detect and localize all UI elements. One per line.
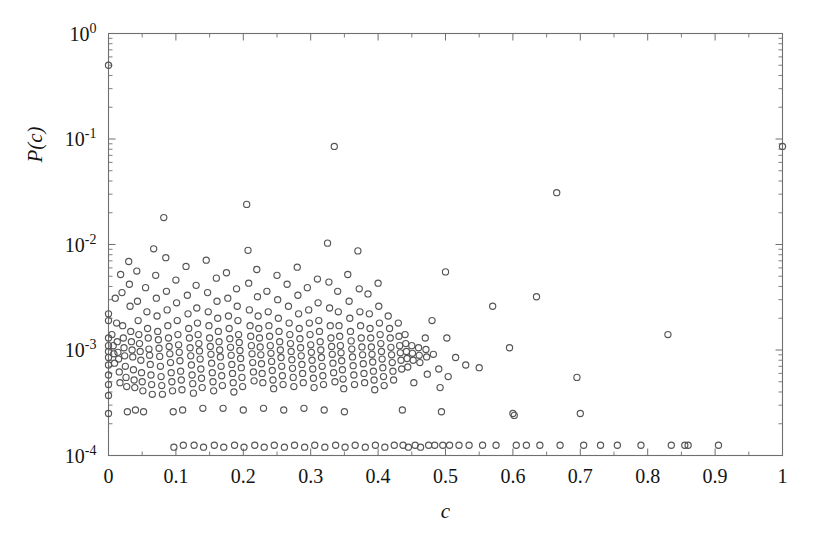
data-point bbox=[208, 351, 214, 357]
data-points-group bbox=[105, 62, 785, 450]
data-point bbox=[228, 352, 234, 358]
x-tick-label: 0.5 bbox=[433, 465, 458, 487]
data-point bbox=[215, 315, 221, 321]
data-point bbox=[142, 285, 148, 291]
data-point bbox=[331, 370, 337, 376]
data-point bbox=[358, 335, 364, 341]
data-point bbox=[312, 442, 318, 448]
data-point bbox=[239, 374, 245, 380]
data-point bbox=[174, 317, 180, 323]
data-point bbox=[166, 343, 172, 349]
data-point bbox=[429, 317, 435, 323]
data-point bbox=[136, 341, 142, 347]
data-point bbox=[249, 351, 255, 357]
data-point bbox=[266, 323, 272, 329]
data-point bbox=[533, 294, 539, 300]
data-point bbox=[221, 444, 227, 450]
data-point bbox=[281, 407, 287, 413]
data-point bbox=[378, 348, 384, 354]
data-point bbox=[250, 359, 256, 365]
data-point bbox=[200, 405, 206, 411]
y-tick-exponent: -3 bbox=[85, 337, 97, 352]
data-point bbox=[277, 339, 283, 345]
data-point bbox=[226, 325, 232, 331]
data-point bbox=[118, 271, 124, 277]
data-point bbox=[129, 347, 135, 353]
data-point bbox=[372, 387, 378, 393]
data-point bbox=[346, 298, 352, 304]
data-point bbox=[367, 325, 373, 331]
data-point bbox=[309, 357, 315, 363]
data-point bbox=[218, 363, 224, 369]
data-point bbox=[276, 328, 282, 334]
data-point bbox=[359, 344, 365, 350]
data-point bbox=[320, 373, 326, 379]
data-point bbox=[186, 335, 192, 341]
data-point bbox=[211, 388, 217, 394]
data-point bbox=[211, 442, 217, 448]
data-point bbox=[155, 337, 161, 343]
data-point bbox=[331, 143, 337, 149]
data-point bbox=[479, 442, 485, 448]
data-point bbox=[260, 405, 266, 411]
data-point bbox=[255, 313, 261, 319]
data-point bbox=[338, 350, 344, 356]
data-point bbox=[170, 409, 176, 415]
plot-canvas: 00.10.20.30.40.50.60.70.80.9110010-110-2… bbox=[0, 0, 821, 535]
data-point bbox=[310, 366, 316, 372]
data-point bbox=[446, 442, 452, 448]
data-point bbox=[219, 373, 225, 379]
data-point bbox=[157, 363, 163, 369]
data-point bbox=[347, 328, 353, 334]
data-point bbox=[348, 338, 354, 344]
data-point bbox=[366, 311, 372, 317]
data-point bbox=[715, 442, 721, 448]
data-point bbox=[256, 335, 262, 341]
data-point bbox=[557, 442, 563, 448]
data-point bbox=[308, 342, 314, 348]
data-point bbox=[225, 313, 231, 319]
data-point bbox=[416, 352, 422, 358]
tick-marks bbox=[109, 34, 783, 456]
data-point bbox=[391, 377, 397, 383]
data-point bbox=[349, 354, 355, 360]
data-point bbox=[403, 348, 409, 354]
data-point bbox=[430, 351, 436, 357]
data-point bbox=[205, 309, 211, 315]
x-tick-label: 0.3 bbox=[298, 465, 323, 487]
data-point bbox=[131, 377, 137, 383]
data-point bbox=[423, 346, 429, 352]
data-point bbox=[327, 323, 333, 329]
data-point bbox=[275, 297, 281, 303]
data-point bbox=[386, 325, 392, 331]
data-point bbox=[176, 342, 182, 348]
data-point bbox=[147, 361, 153, 367]
data-point bbox=[260, 380, 266, 386]
data-point bbox=[269, 358, 275, 364]
data-point bbox=[274, 272, 280, 278]
data-point bbox=[318, 354, 324, 360]
data-point bbox=[351, 372, 357, 378]
data-point bbox=[206, 323, 212, 329]
data-point bbox=[291, 442, 297, 448]
data-point bbox=[316, 328, 322, 334]
x-tick-label: 0.6 bbox=[500, 465, 525, 487]
data-point bbox=[290, 374, 296, 380]
data-point bbox=[188, 362, 194, 368]
data-point bbox=[229, 370, 235, 376]
data-point bbox=[398, 357, 404, 363]
data-point bbox=[322, 444, 328, 450]
data-point bbox=[163, 288, 169, 294]
data-point bbox=[597, 442, 603, 448]
data-point bbox=[111, 351, 117, 357]
data-point bbox=[139, 379, 145, 385]
data-point bbox=[121, 345, 127, 351]
data-point bbox=[225, 295, 231, 301]
data-point bbox=[405, 364, 411, 370]
data-point bbox=[360, 352, 366, 358]
data-point bbox=[577, 410, 583, 416]
data-point bbox=[251, 378, 257, 384]
data-point bbox=[200, 444, 206, 450]
data-point bbox=[169, 379, 175, 385]
data-point bbox=[248, 333, 254, 339]
